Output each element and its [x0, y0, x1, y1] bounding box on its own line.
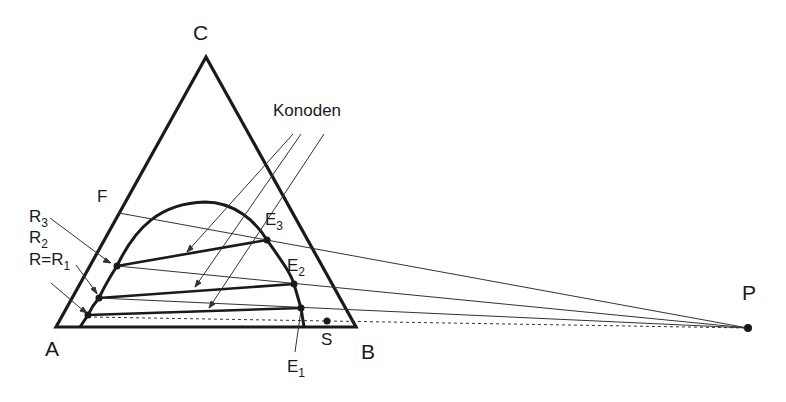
tie-line-3 — [117, 240, 267, 266]
point-R2 — [96, 295, 103, 302]
label-E1: E1 — [287, 357, 305, 380]
label-C: C — [193, 21, 208, 44]
tie-line-1 — [88, 308, 301, 315]
label-S: S — [321, 330, 332, 349]
point-P — [744, 324, 752, 332]
label-E3: E3 — [265, 210, 283, 233]
point-E3 — [264, 237, 271, 244]
label-konoden: Konoden — [273, 101, 341, 120]
label-R1: R=R1 — [29, 250, 70, 273]
label-A: A — [45, 337, 59, 360]
label-R2: R2 — [29, 228, 48, 251]
point-R3 — [114, 263, 121, 270]
label-B: B — [361, 340, 375, 363]
operating-line-R2 — [99, 298, 748, 328]
point-E2 — [291, 281, 298, 288]
e1-pointer — [295, 310, 301, 352]
label-P: P — [742, 281, 756, 304]
ternary-diagram: C A B F S P Konoden R3 R2 R=R1 E3 E2 E1 — [0, 0, 786, 402]
konoden-pointers — [187, 134, 324, 308]
label-F: F — [97, 187, 107, 206]
point-E1 — [298, 305, 305, 312]
point-S — [324, 318, 331, 325]
operating-line-R3 — [117, 266, 748, 328]
point-R1 — [85, 312, 92, 319]
label-R3: R3 — [29, 207, 48, 230]
